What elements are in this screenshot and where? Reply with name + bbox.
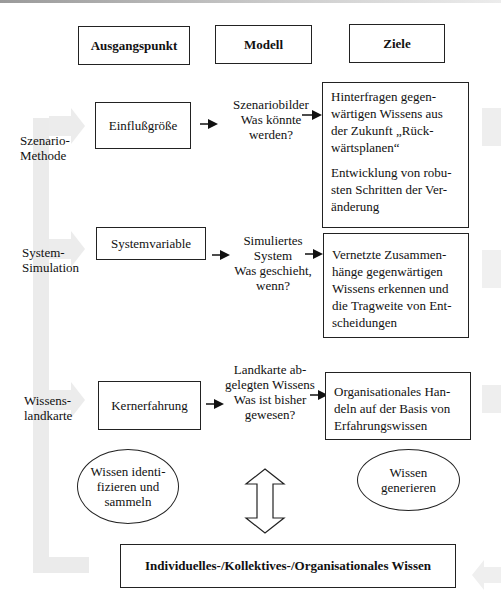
row-label-line: Methode [20, 148, 70, 163]
right-arrow-icon [302, 109, 322, 121]
up-down-double-arrow-icon [244, 468, 286, 534]
right-arrow-icon [305, 248, 323, 260]
goal-paragraph: Hinterfragen gegen- wärtigen Wissens aus… [331, 88, 460, 156]
header-ausgangspunkt: Ausgangspunkt [78, 26, 190, 65]
right-flow-bar-low [482, 385, 501, 413]
model-line: gewesen? [220, 407, 320, 422]
top-rule [0, 0, 501, 3]
model-text-simuliertes-system: Simuliertes System Was geschieht, wenn? [228, 233, 318, 293]
ellipse-line: Wissen [381, 465, 436, 480]
goal-line: Organisationales Han- [334, 384, 450, 399]
start-box-kernerfahrung: Kernerfahrung [98, 381, 201, 430]
bottom-box-label: Individuelles-/Kollektives-/Organisation… [145, 558, 431, 574]
left-flow-bar [33, 118, 49, 573]
header-ausgangspunkt-label: Ausgangspunkt [91, 38, 178, 54]
goal-line: wärtsplanen“ [331, 140, 400, 155]
goal-line: änderung [331, 199, 379, 214]
goal-box-system-simulation: Vernetzte Zusammen- hänge gegenwärtigen … [323, 233, 469, 338]
start-box-systemvariable: Systemvariable [96, 227, 206, 260]
right-flow-bar-top [482, 108, 501, 146]
goal-line: Hinterfragen gegen- [331, 89, 436, 104]
right-flow-arrow-icon [472, 560, 501, 590]
header-ziele-label: Ziele [383, 36, 410, 52]
goal-box-szenario: Hinterfragen gegen- wärtigen Wissens aus… [322, 82, 469, 228]
row-label-line: Wissens- [24, 393, 72, 408]
row-label-line: Szenario- [20, 133, 70, 148]
ellipse-wissen-generieren: Wissen generieren [357, 449, 460, 511]
goal-line: die Tragweite von Ent- [332, 298, 452, 313]
right-arrow-icon [200, 118, 218, 130]
model-line: gelegten Wissens [220, 377, 320, 392]
row-label-line: System- [22, 245, 79, 260]
row-label-line: landkarte [24, 408, 72, 423]
goal-line: scheidungen [332, 315, 397, 330]
bottom-box-wissen: Individuelles-/Kollektives-/Organisation… [120, 544, 456, 588]
right-flow-bar-mid [482, 250, 501, 288]
start-box-label: Kernerfahrung [111, 398, 188, 414]
header-modell: Modell [215, 25, 312, 64]
ellipse-line: Wissen identi- [91, 464, 166, 479]
ellipse-wissen-identifizieren: Wissen identi- fizieren und sammeln [77, 449, 179, 524]
goal-line: der Zukunft „Rück- [331, 123, 434, 138]
model-text-landkarte: Landkarte ab- gelegten Wissens Was ist b… [220, 362, 320, 422]
goal-paragraph: Organisationales Han- deln auf der Basis… [334, 383, 462, 434]
row-label-line: Simulation [22, 260, 79, 275]
model-line: Was geschieht, [228, 263, 318, 278]
ellipse-line: sammeln [91, 494, 166, 509]
goal-paragraph: Vernetzte Zusammen- hänge gegenwärtigen … [332, 246, 460, 331]
goal-paragraph: Entwicklung von robu- sten Schritten der… [331, 164, 460, 215]
ellipse-line: generieren [381, 480, 436, 495]
goal-line: sten Schritten der Ver- [331, 182, 447, 197]
model-line: werden? [226, 127, 316, 142]
row-label-wissenslandkarte: Wissens- landkarte [24, 393, 72, 423]
start-box-label: Einflußgröße [109, 118, 178, 134]
ellipse-line: fizieren und [91, 479, 166, 494]
goal-line: Entwicklung von robu- [331, 165, 452, 180]
left-flow-bar-foot [33, 557, 89, 573]
goal-box-wissenslandkarte: Organisationales Han- deln auf der Basis… [325, 372, 471, 440]
goal-line: Wissens erkennen und [332, 281, 448, 296]
header-modell-label: Modell [244, 37, 283, 53]
goal-line: Vernetzte Zusammen- [332, 247, 446, 262]
goal-line: hänge gegenwärtigen [332, 264, 443, 279]
header-ziele: Ziele [349, 24, 445, 63]
start-box-label: Systemvariable [111, 236, 191, 252]
row-label-system-simulation: System- Simulation [22, 245, 79, 275]
goal-line: Erfahrungswissen [334, 418, 427, 433]
goal-line: deln auf der Basis von [334, 401, 450, 416]
model-line: wenn? [228, 278, 318, 293]
start-box-einflussgroesse: Einflußgröße [95, 102, 191, 149]
model-line: Landkarte ab- [220, 362, 320, 377]
model-line: Was ist bisher [220, 392, 320, 407]
goal-line: wärtigen Wissens aus [331, 106, 443, 121]
row-label-szenario-methode: Szenario- Methode [20, 133, 70, 163]
model-line: Simuliertes [228, 233, 318, 248]
